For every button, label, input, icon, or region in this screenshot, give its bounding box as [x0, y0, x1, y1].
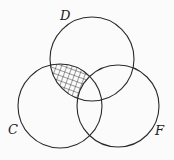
set-f-circle — [77, 65, 159, 147]
set-d-label: D — [59, 8, 71, 23]
venn-diagram: D C F — [0, 0, 174, 160]
set-f-label: F — [154, 123, 165, 138]
set-c-label: C — [8, 122, 18, 137]
